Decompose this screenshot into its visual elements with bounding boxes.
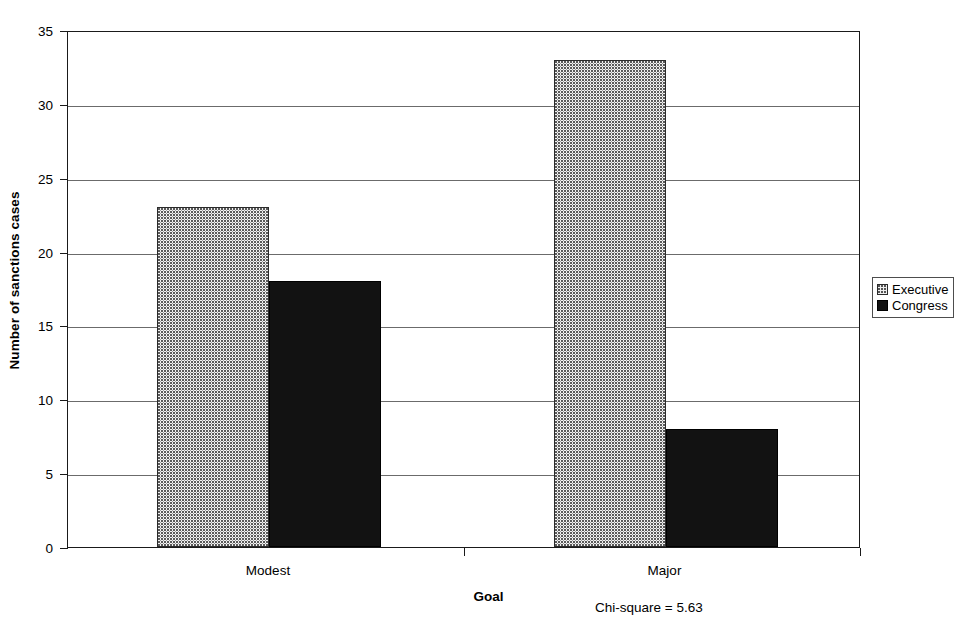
legend-label-executive: Executive — [892, 283, 948, 296]
x-tick-mark — [464, 548, 465, 556]
legend-item-congress: Congress — [877, 298, 948, 313]
y-tick-label: 10 — [7, 393, 53, 408]
legend: Executive Congress — [872, 277, 954, 318]
bar-modest-executive — [157, 207, 269, 547]
y-tick-mark — [60, 548, 68, 549]
bar-major-congress — [666, 429, 778, 547]
x-category-label: Major — [648, 563, 682, 578]
bar-major-executive — [554, 60, 666, 547]
y-tick-label: 15 — [7, 319, 53, 334]
gridline — [68, 180, 859, 181]
y-tick-label: 25 — [7, 171, 53, 186]
bar-modest-congress — [269, 281, 381, 547]
chi-square-annotation: Chi-square = 5.63 — [595, 600, 703, 615]
legend-label-congress: Congress — [892, 299, 948, 312]
x-category-label: Modest — [246, 563, 290, 578]
bar-chart-figure: Number of sanctions cases 05101520253035… — [0, 0, 977, 630]
x-axis-title: Goal — [0, 589, 977, 604]
congress-swatch-icon — [877, 300, 888, 311]
y-axis-title-text: Number of sanctions cases — [7, 191, 22, 369]
plot-area — [67, 31, 860, 548]
executive-swatch-icon — [877, 284, 888, 295]
y-tick-label: 35 — [7, 24, 53, 39]
x-tick-mark — [860, 548, 861, 556]
y-tick-label: 20 — [7, 245, 53, 260]
gridline — [68, 106, 859, 107]
y-tick-label: 5 — [7, 467, 53, 482]
legend-item-executive: Executive — [877, 282, 948, 297]
y-tick-label: 0 — [7, 541, 53, 556]
y-tick-label: 30 — [7, 97, 53, 112]
